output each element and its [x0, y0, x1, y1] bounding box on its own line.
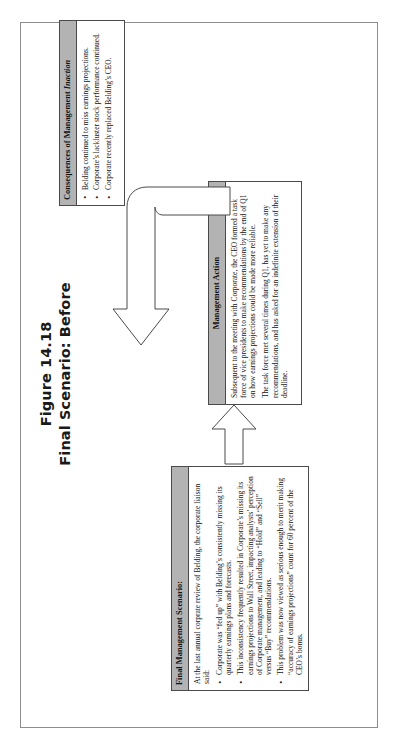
list-item: Belding continued to miss earnings proje… — [81, 27, 90, 190]
scenario-box-header: Final Management Scenario: — [172, 467, 189, 690]
consequences-header-emphasis: Inaction — [63, 60, 72, 89]
action-paragraph: Subsequent to the meeting with Corporate… — [230, 188, 258, 398]
consequences-box-header: Consequences of Management Inaction — [60, 21, 77, 205]
list-item: Corporate’s lackluster stock performance… — [92, 27, 101, 190]
list-item: Corporate recently replaced Belding’s CE… — [104, 27, 113, 190]
list-item: This inconsistency frequently resulted i… — [236, 473, 274, 675]
rotated-page: Figure 14.18 Final Scenario: Before Fina… — [0, 0, 398, 746]
arrow-scenario-to-action-icon — [207, 403, 261, 465]
scenario-intro: At the last annual corprate review of Be… — [193, 473, 212, 684]
consequences-box: Consequences of Management Inaction Beld… — [59, 20, 125, 206]
list-item: Corporate was “fed up” with Belding’s co… — [215, 473, 234, 675]
figure-number: Figure 14.18 — [38, 322, 54, 427]
action-box-body: Subsequent to the meeting with Corporate… — [226, 182, 294, 404]
consequences-box-body: Belding continued to miss earnings proje… — [77, 21, 118, 205]
final-management-scenario-box: Final Management Scenario: At the last a… — [171, 466, 309, 691]
consequences-bullet-list: Belding continued to miss earnings proje… — [81, 27, 114, 199]
scenario-bullet-list: Corporate was “fed up” with Belding’s co… — [215, 473, 305, 684]
screenshot-canvas: Figure 14.18 Final Scenario: Before Fina… — [0, 0, 398, 746]
list-item: This problem was now viewed as serious e… — [276, 473, 304, 675]
scenario-box-body: At the last annual corprate review of Be… — [189, 467, 309, 690]
consequences-header-prefix: Consequences of Management — [63, 89, 72, 200]
action-paragraph: The task force met several times during … — [261, 188, 289, 398]
page-frame: Figure 14.18 Final Scenario: Before Fina… — [20, 22, 378, 728]
